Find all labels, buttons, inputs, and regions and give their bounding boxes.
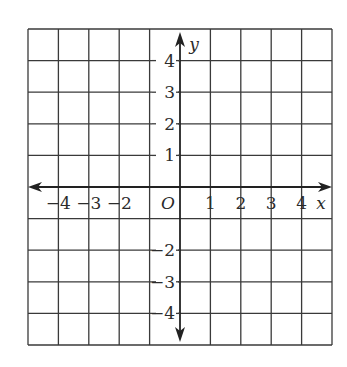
coordinate-plane: 4321−2−3−4−4−3−21234Oxy [0, 0, 347, 367]
origin-label: O [161, 193, 175, 213]
x-tick-label: 3 [266, 193, 277, 213]
x-tick-label: 4 [296, 193, 307, 213]
axes [28, 32, 332, 342]
y-tick-label: 4 [164, 51, 175, 71]
x-tick-label: 1 [205, 193, 216, 213]
y-tick-label: −2 [150, 240, 175, 260]
x-axis-label: x [316, 193, 326, 213]
y-tick-label: 2 [164, 114, 175, 134]
x-tick-label: −4 [46, 193, 71, 213]
y-tick-label: 3 [164, 82, 175, 102]
x-tick-label: −3 [76, 193, 101, 213]
x-tick-label: 2 [235, 193, 246, 213]
x-tick-label: −2 [107, 193, 132, 213]
labels: 4321−2−3−4−4−3−21234Oxy [46, 34, 326, 323]
y-tick-label: 1 [164, 145, 175, 165]
y-tick-label: −3 [150, 272, 175, 292]
y-axis-label: y [188, 34, 199, 54]
y-tick-label: −4 [150, 303, 175, 323]
